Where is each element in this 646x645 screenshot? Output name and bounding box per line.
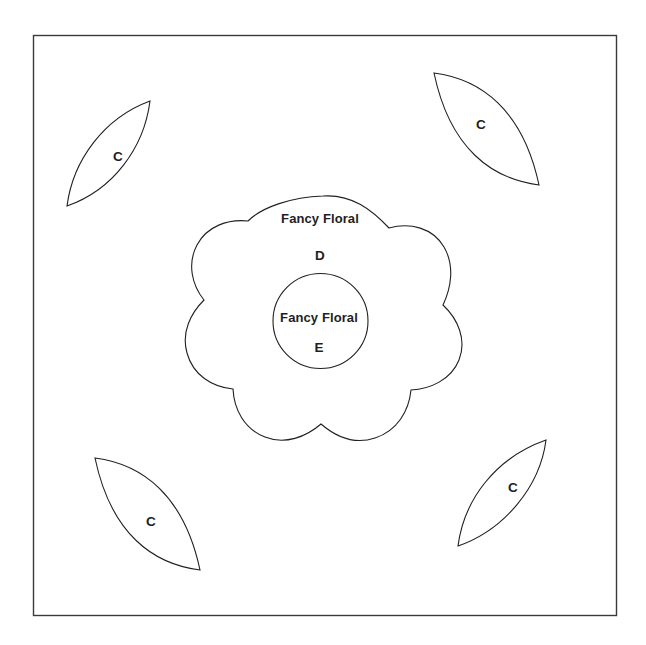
center-flower-brand-label: Fancy Floral — [281, 211, 359, 226]
leaf-bottom-right-letter: C — [508, 480, 518, 495]
center-flower-piece-letter: D — [315, 248, 325, 263]
center-circle-brand-label: Fancy Floral — [280, 310, 358, 325]
leaf-top-right-letter: C — [476, 117, 486, 132]
diagram-canvas: Fancy Floral D Fancy Floral E C C C C — [0, 0, 646, 645]
center-circle-piece-letter: E — [314, 340, 323, 355]
leaf-top-left-letter: C — [113, 149, 123, 164]
leaf-bottom-left-letter: C — [146, 514, 156, 529]
